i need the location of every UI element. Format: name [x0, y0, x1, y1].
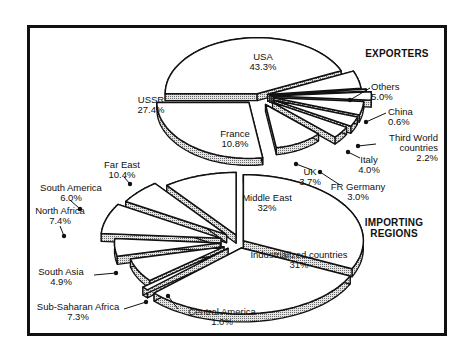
- label-france: France 10.8%: [210, 129, 260, 149]
- label-china: China 0.6%: [388, 107, 413, 127]
- label-value: 4.9%: [33, 277, 89, 287]
- label-ussr: USSR 27.4%: [126, 95, 176, 115]
- label-value: 5.0%: [371, 92, 400, 102]
- exporters-title: EXPORTERS: [365, 48, 428, 59]
- label-central-america: Central America 1.0%: [182, 307, 262, 327]
- label-value: 7.3%: [30, 312, 126, 322]
- label-fr-germany: FR Germany 3.0%: [328, 182, 388, 202]
- label-value: 1.0%: [182, 317, 262, 327]
- exporters-heading: EXPORTERS: [352, 48, 442, 59]
- label-usa: USA 43.3%: [238, 52, 288, 72]
- label-value: 6.0%: [36, 193, 106, 203]
- label-italy: Italy 4.0%: [352, 155, 386, 175]
- importing-title-line2: REGIONS: [352, 228, 436, 239]
- label-far-east: Far East 10.4%: [99, 160, 145, 180]
- label-value: 7.4%: [30, 216, 90, 226]
- label-middle-east: Middle East 32%: [232, 193, 302, 213]
- importing-regions-heading: IMPORTING REGIONS: [352, 217, 436, 239]
- label-value: 27.4%: [126, 105, 176, 115]
- label-value: 10.8%: [210, 139, 260, 149]
- label-value: 3.0%: [328, 192, 388, 202]
- label-others: Others 5.0%: [371, 82, 400, 102]
- label-value: 0.6%: [388, 117, 413, 127]
- label-south-america: South America 6.0%: [36, 183, 106, 203]
- label-north-africa: North Africa 7.4%: [30, 206, 90, 226]
- label-value: 32%: [232, 203, 302, 213]
- importing-title-line1: IMPORTING: [352, 217, 436, 228]
- label-uk: UK 3.7%: [295, 167, 325, 187]
- label-industrialized: Industrialized countries 31%: [244, 250, 354, 270]
- label-south-asia: South Asia 4.9%: [33, 267, 89, 287]
- label-value: 4.0%: [352, 165, 386, 175]
- label-value: 10.4%: [99, 170, 145, 180]
- label-value: 3.7%: [295, 177, 325, 187]
- label-value: 43.3%: [238, 62, 288, 72]
- label-sub-saharan-africa: Sub-Saharan Africa 7.3%: [30, 302, 126, 322]
- label-value: 31%: [244, 260, 354, 270]
